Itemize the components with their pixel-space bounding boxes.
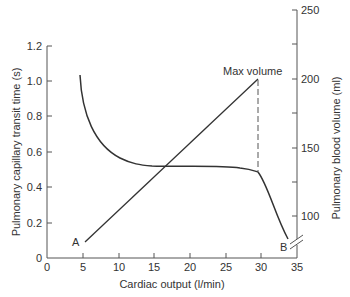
y-right-ticks <box>292 10 297 216</box>
svg-text:0.2: 0.2 <box>27 217 42 229</box>
svg-text:10: 10 <box>113 261 125 273</box>
y-axis-right-label: Pulmonary blood volume (ml) <box>330 76 342 219</box>
svg-text:0: 0 <box>44 261 50 273</box>
x-tick-labels: 0 5 10 15 20 25 30 35 <box>44 261 303 273</box>
svg-text:250: 250 <box>301 4 319 16</box>
chart: 0 5 10 15 20 25 30 35 Cardiac output (l/… <box>0 0 350 297</box>
y-left-ticks <box>47 46 52 223</box>
svg-text:0.4: 0.4 <box>27 181 42 193</box>
point-a-label: A <box>72 236 80 248</box>
svg-text:30: 30 <box>255 261 267 273</box>
svg-text:0.6: 0.6 <box>27 146 42 158</box>
svg-text:1.0: 1.0 <box>27 75 42 87</box>
svg-text:15: 15 <box>148 261 160 273</box>
svg-text:0.8: 0.8 <box>27 110 42 122</box>
svg-text:0: 0 <box>36 252 42 264</box>
svg-text:35: 35 <box>291 261 303 273</box>
svg-text:5: 5 <box>80 261 86 273</box>
axes <box>47 10 303 258</box>
x-ticks <box>83 253 261 258</box>
svg-text:100: 100 <box>301 210 319 222</box>
svg-text:20: 20 <box>184 261 196 273</box>
transit-time-curve <box>80 75 288 239</box>
point-b-label: B <box>280 241 287 253</box>
svg-text:1.2: 1.2 <box>27 40 42 52</box>
y-left-tick-labels: 0 0.2 0.4 0.6 0.8 1.0 1.2 <box>27 40 42 264</box>
blood-volume-line <box>85 79 258 242</box>
max-volume-label: Max volume <box>223 65 282 77</box>
svg-text:25: 25 <box>220 261 232 273</box>
x-axis-label: Cardiac output (l/min) <box>119 278 224 290</box>
y-axis-left-label: Pulmonary capillary transit time (s) <box>10 68 22 237</box>
y-right-tick-labels: 100 150 200 250 <box>301 4 319 222</box>
svg-text:150: 150 <box>301 142 319 154</box>
svg-text:200: 200 <box>301 73 319 85</box>
